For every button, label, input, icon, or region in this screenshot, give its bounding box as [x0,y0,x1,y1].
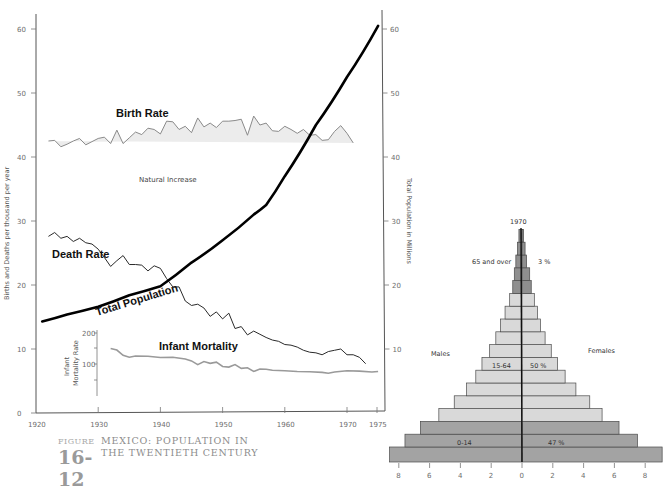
right-tick-label: 20 [392,282,401,290]
left-tick-label: 10 [17,346,26,354]
infant-mortality-line [111,349,378,374]
males-label: Males [431,350,450,358]
right-tick-label: 10 [393,346,402,354]
left-tick-label: 30 [17,218,26,226]
left-tick-label: 20 [17,282,26,290]
pyramid-bar-female [522,409,602,422]
right-tick-label: 50 [391,90,400,98]
left-tick-label: 50 [17,90,26,98]
pyramid-bars [390,229,663,462]
pyramid-tick-label: 4 [581,472,586,480]
pyramid-bar-male [390,447,522,462]
pyramid-bar-male [496,332,522,345]
x-tick-label: 1960 [277,421,295,429]
left-tick-label: 60 [17,26,26,34]
natural-increase-label: Natural Increase [139,176,197,184]
pyramid-tick-label: 0 [520,472,524,480]
pyramid-bar-female [522,345,551,358]
left-axis-title: Births and Deaths per thousand per year [3,167,11,300]
x-axis-ticks: 1920193019401950196019701975 [28,407,387,429]
death-rate-label: Death Rate [52,248,109,260]
pyramid-bar-male [510,293,522,306]
pyramid-bar-female [522,281,531,294]
x-tick-label: 1975 [369,421,387,429]
birth-rate-label: Birth Rate [116,107,169,119]
infant-tick-label-200: 200 [82,330,95,338]
pyramid-tick-label: 8 [396,472,400,480]
pyramid-tick-label: 4 [458,472,463,480]
pyramid-axis-ticks: 864202468 [396,463,647,480]
pyramid-bar-male [490,345,522,358]
pyramid-bar-male [505,306,522,319]
right-tick-label: 40 [391,154,400,162]
pyramid-bar-female [522,447,662,462]
total-population-line [42,26,378,322]
main-line-chart: 0102030405060 102030405060 1920193019401… [3,10,413,429]
age-15-64-label: 15-64 [492,362,511,370]
pyramid-bar-male [467,383,522,396]
right-tick-label: 60 [390,26,399,34]
figure-title-line1: MEXICO: POPULATION IN [101,435,258,447]
pyramid-bar-female [522,421,619,434]
pyramid-bar-male [476,370,522,383]
females-label: Females [588,347,616,355]
bottom-axis-line [36,411,385,413]
infant-tick-label-100: 100 [82,361,95,369]
pyramid-tick-label: 6 [427,472,432,480]
left-tick-label: 0 [17,410,21,418]
pyramid-bar-female [522,255,527,268]
pct-65-label: 3 % [538,258,550,266]
right-axis-line [382,10,385,411]
age-65-label: 65 and over [472,258,511,266]
infant-axis-title-line2: Mortality Rate [72,340,80,386]
pyramid-tick-label: 2 [489,472,493,480]
x-tick-label: 1940 [152,421,170,429]
pyramid-bar-female [522,306,537,319]
x-tick-label: 1920 [28,421,46,429]
pct-15-64-label: 50 % [530,362,547,370]
pyramid-bar-female [522,434,638,447]
right-axis-ticks: 102030405060 [382,26,401,354]
figure-number: 16-12 [58,446,92,490]
pyramid-tick-label: 2 [550,472,554,480]
pyramid-bar-female [522,242,525,255]
pyramid-bar-female [522,229,524,242]
pyramid-tick-label: 8 [643,472,647,480]
pct-0-14-label: 47 % [548,439,565,447]
population-pyramid: 864202468 1970 65 and over 3 % Males Fem… [390,218,663,480]
pyramid-bar-female [522,396,590,409]
pyramid-bar-female [522,319,540,332]
x-tick-label: 1930 [90,421,108,429]
pyramid-tick-label: 6 [612,472,617,480]
infant-axis-title-line1: Infant [63,357,71,376]
age-0-14-label: 0-14 [457,439,472,447]
figure-title-line2: THE TWENTIETH CENTURY [101,447,258,459]
pyramid-bar-female [522,268,530,281]
right-tick-label: 30 [392,218,401,226]
pyramid-bar-female [522,293,534,306]
left-tick-label: 40 [17,154,26,162]
pyramid-bar-female [522,370,565,383]
left-axis-ticks: 0102030405060 [17,26,36,418]
figure-word: FIGURE [58,437,95,446]
pyramid-bar-female [522,383,576,396]
x-tick-label: 1950 [215,421,233,429]
figure-title: MEXICO: POPULATION IN THE TWENTIETH CENT… [101,435,258,459]
pyramid-center-line [521,228,522,462]
pyramid-bar-female [522,332,545,345]
pyramid-year-label: 1970 [510,218,527,226]
x-tick-label: 1970 [339,421,357,429]
right-axis-title: Total Population in Millions [405,177,413,264]
total-population-label: Total Population [94,281,179,318]
infant-mortality-label: Infant Mortality [159,340,239,352]
pyramid-bar-male [420,421,522,434]
pyramid-bar-male [500,319,522,332]
pyramid-bar-male [454,396,522,409]
pyramid-bar-male [439,409,522,422]
